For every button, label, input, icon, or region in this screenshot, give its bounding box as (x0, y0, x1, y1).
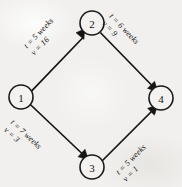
node-2-label: 2 (89, 18, 95, 30)
network-graph: 1 2 3 4 (0, 0, 182, 187)
diagram-canvas: 1 2 3 4 t = 5 weeks v = 16 t = 6 weeks v… (0, 0, 182, 187)
node-4[interactable]: 4 (149, 86, 173, 110)
node-2[interactable]: 2 (80, 11, 104, 35)
edge-1-3 (30, 105, 88, 160)
node-4-label: 4 (158, 93, 164, 105)
node-1[interactable]: 1 (9, 85, 33, 109)
node-3[interactable]: 3 (80, 155, 104, 179)
node-3-label: 3 (89, 162, 95, 174)
node-1-label: 1 (18, 92, 24, 104)
